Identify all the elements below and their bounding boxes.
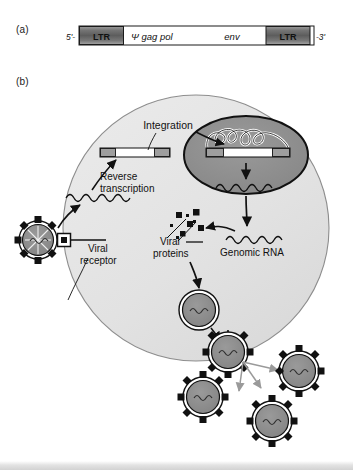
- nascent-virion: [179, 290, 219, 330]
- integration-label: Integration: [143, 119, 193, 131]
- entering-virion: [15, 216, 59, 264]
- ltr-left-label: LTR: [93, 32, 110, 42]
- integrated-provirus: [206, 148, 290, 157]
- genomic-rna-label: Genomic RNA: [220, 247, 284, 258]
- reverse-transcription-label-line2: transcription: [100, 183, 154, 194]
- env-label: env: [224, 31, 241, 42]
- psi-gag-pol-label: Ψ gag pol: [131, 31, 174, 42]
- five-prime-label: 5'-: [66, 32, 75, 42]
- rna-export-arrow: [246, 196, 247, 226]
- figure-canvas: 5'- LTR LTR Ψ gag pol env -3': [0, 0, 353, 470]
- ltr-right-label: LTR: [280, 32, 297, 42]
- genome-map: 5'- LTR LTR Ψ gag pol env -3': [66, 26, 326, 45]
- viral-proteins-label-line2: proteins: [153, 248, 189, 259]
- page-edge-band: [0, 461, 353, 470]
- retrovirus-life-cycle-figure: (a) (b): [0, 0, 353, 470]
- viral-proteins-label-line1: Viral: [160, 236, 180, 247]
- released-virion-left: [178, 371, 229, 423]
- three-prime-label: -3': [316, 32, 326, 42]
- released-virion-bottom: [247, 395, 298, 447]
- viral-dna: [100, 148, 170, 157]
- life-cycle-diagram: Genomic RNA Viral proteins: [15, 95, 330, 447]
- released-virion-right: [275, 345, 325, 397]
- budding-virion: [203, 330, 254, 378]
- viral-receptor-label-line1: Viral: [88, 243, 108, 254]
